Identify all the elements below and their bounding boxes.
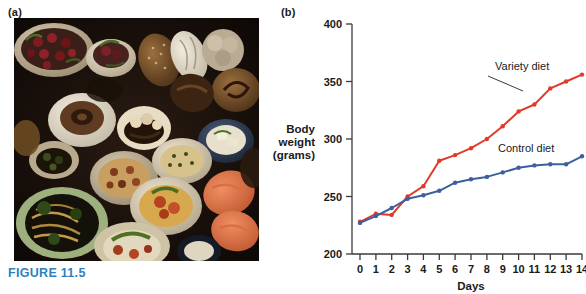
- data-point: [564, 79, 568, 83]
- x-tick-4: 4: [420, 263, 427, 275]
- x-axis-title: Days: [457, 280, 485, 292]
- x-tick-7: 7: [468, 263, 474, 275]
- x-tick-11: 11: [529, 263, 541, 275]
- y-axis-title-line3: (grams): [273, 149, 315, 161]
- data-point: [390, 213, 394, 217]
- data-point: [532, 163, 536, 167]
- data-point: [580, 72, 584, 76]
- figure-caption: FIGURE 11.5: [8, 266, 86, 280]
- x-tick-3: 3: [405, 263, 411, 275]
- x-tick-1: 1: [373, 263, 379, 275]
- x-tick-0: 0: [357, 263, 363, 275]
- x-tick-6: 6: [452, 263, 458, 275]
- data-point: [469, 146, 473, 150]
- data-point: [548, 86, 552, 90]
- y-tick-400: 400: [324, 18, 342, 30]
- y-axis-tick-labels: 400 350 300 250 200: [324, 18, 342, 260]
- data-point: [390, 206, 394, 210]
- x-tick-10: 10: [512, 263, 524, 275]
- x-axis-ticks: [360, 254, 582, 260]
- data-point: [421, 184, 425, 188]
- data-point: [421, 193, 425, 197]
- data-point: [437, 159, 441, 163]
- y-tick-300: 300: [324, 133, 342, 145]
- series-label-control-diet: Control diet: [498, 142, 554, 154]
- x-tick-5: 5: [436, 263, 442, 275]
- x-tick-12: 12: [544, 263, 556, 275]
- chart-svg: 400 350 300 250 200 Body weight (grams): [270, 0, 586, 294]
- data-point: [501, 170, 505, 174]
- x-tick-2: 2: [389, 263, 395, 275]
- y-tick-250: 250: [324, 191, 342, 203]
- y-axis-title: Body weight (grams): [273, 123, 316, 161]
- weight-gain-line-chart: 400 350 300 250 200 Body weight (grams): [270, 0, 586, 294]
- panel-a-label: (a): [8, 6, 22, 18]
- data-point: [501, 124, 505, 128]
- y-tick-350: 350: [324, 76, 342, 88]
- data-point: [453, 181, 457, 185]
- food-photo-image: [14, 18, 259, 261]
- data-point: [516, 166, 520, 170]
- data-point: [516, 109, 520, 113]
- annotation-leader-line: [488, 76, 523, 91]
- y-tick-200: 200: [324, 248, 342, 260]
- data-point: [564, 162, 568, 166]
- data-point: [405, 197, 409, 201]
- data-point: [485, 137, 489, 141]
- data-point: [532, 102, 536, 106]
- x-tick-8: 8: [484, 263, 490, 275]
- x-tick-9: 9: [500, 263, 506, 275]
- y-axis-title-line2: weight: [278, 136, 316, 148]
- food-photo-svg: [14, 18, 259, 261]
- data-point: [437, 189, 441, 193]
- y-axis-ticks: [346, 24, 352, 254]
- data-point: [453, 153, 457, 157]
- data-point: [485, 175, 489, 179]
- data-point: [358, 221, 362, 225]
- x-tick-13: 13: [560, 263, 572, 275]
- series-label-variety-diet: Variety diet: [495, 60, 549, 72]
- data-point: [548, 162, 552, 166]
- x-axis-tick-labels: 0 1 2 3 4 5 6 7 8 9 10 11 12 13 14: [357, 263, 586, 275]
- y-axis-title-line1: Body: [286, 123, 315, 135]
- data-point: [469, 177, 473, 181]
- data-point: [580, 154, 584, 158]
- x-tick-14: 14: [576, 263, 586, 275]
- data-point: [374, 214, 378, 218]
